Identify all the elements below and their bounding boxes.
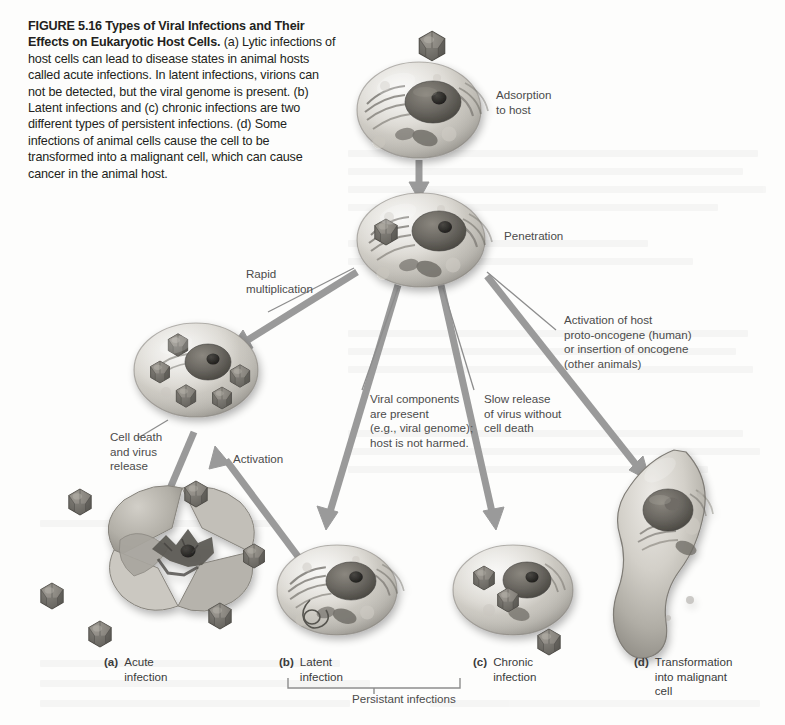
- label-cell-death-and-virus-release: Cell death and virus release: [110, 430, 162, 474]
- cell-chronic: [453, 545, 573, 635]
- leader-viral-components: [362, 288, 398, 390]
- cell-penetration: [357, 193, 492, 287]
- cell-adsorption: [357, 62, 488, 158]
- label-viral-components: Viral components are present (e.g., vira…: [370, 392, 473, 450]
- cell-latent: [277, 545, 404, 635]
- virion-released-chronic: [538, 629, 560, 655]
- persistent-infections-label: Persistant infections: [352, 692, 456, 705]
- panel-text-c: Chronic infection: [493, 655, 536, 684]
- figure-caption: FIGURE 5.16 Types of Viral Infections an…: [28, 18, 336, 182]
- label-oncogene-activation: Activation of host proto-oncogene (human…: [564, 313, 692, 371]
- panel-text-d: Transformation into malignant cell: [655, 655, 733, 699]
- label-adsorption-to-host: Adsorption to host: [496, 88, 551, 117]
- cell-malignant: [613, 450, 713, 658]
- cell-rapid-multiplication: [134, 323, 258, 417]
- panel-label-b: (b) Latent infection: [279, 655, 343, 684]
- panel-letter-d: (d): [634, 655, 649, 699]
- panel-label-a: (a) Acute infection: [104, 655, 167, 684]
- virion-adsorbed: [419, 31, 444, 60]
- label-activation: Activation: [233, 452, 283, 467]
- panel-text-a: Acute infection: [124, 655, 167, 684]
- cell-lysed-acute: [108, 486, 254, 611]
- figure-caption-body: (a) Lytic infections of host cells can l…: [28, 35, 335, 180]
- panel-label-d: (d) Transformation into malignant cell: [634, 655, 732, 699]
- figure-number: FIGURE 5.16: [28, 19, 102, 33]
- figure-page: FIGURE 5.16 Types of Viral Infections an…: [0, 0, 785, 725]
- panel-label-c: (c) Chronic infection: [473, 655, 536, 684]
- panel-letter-a: (a): [104, 655, 118, 684]
- panel-letter-c: (c): [473, 655, 487, 684]
- panel-letter-b: (b): [279, 655, 294, 684]
- panel-text-b: Latent infection: [300, 655, 343, 684]
- arrow-to-transformation: [487, 276, 650, 481]
- label-penetration: Penetration: [504, 229, 563, 244]
- label-slow-release: Slow release of virus without cell death: [484, 392, 561, 436]
- label-rapid-multiplication: Rapid multiplication: [246, 267, 313, 296]
